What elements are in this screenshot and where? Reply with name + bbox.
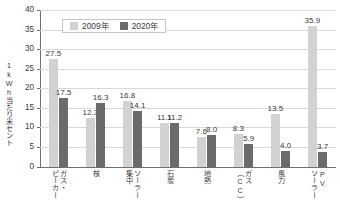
y-tick-label: 15 xyxy=(25,104,34,112)
bar-value-label: 11.2 xyxy=(167,114,182,122)
bar-value-label: 8.0 xyxy=(206,126,217,134)
plot-area: 0510152025303540 27.517.512.316.316.814.… xyxy=(40,10,336,168)
legend-item-2020: 2020年 xyxy=(120,22,159,30)
category-label-column: PV xyxy=(318,170,326,199)
category-label: 地熱 xyxy=(188,170,225,211)
bar-2020: 4.0 xyxy=(281,151,290,167)
category-label: 核 xyxy=(77,170,114,211)
category-label-column: 地熱 xyxy=(202,170,210,184)
bar-value-label: 3.7 xyxy=(317,143,328,151)
bar-value-label: 8.3 xyxy=(233,125,244,133)
y-tick-label: 35 xyxy=(25,25,34,33)
y-tick-label: 40 xyxy=(25,6,34,14)
bar-2020: 17.5 xyxy=(59,98,68,167)
bar-value-label: 16.8 xyxy=(120,92,136,100)
bar-value-label: 35.9 xyxy=(305,17,321,25)
legend-label-2009: 2009年 xyxy=(82,22,109,30)
x-axis-line xyxy=(40,167,336,168)
legend-item-2009: 2009年 xyxy=(70,22,109,30)
bar-value-label: 13.5 xyxy=(268,105,284,113)
y-tick-label: 25 xyxy=(25,65,34,73)
y-tick-label: 0 xyxy=(29,162,34,170)
bar-2009: 7.6 xyxy=(197,137,206,167)
legend-label-2020: 2020年 xyxy=(132,22,159,30)
bar-value-label: 14.1 xyxy=(130,102,146,110)
category-label: ソーラー集中 xyxy=(114,170,151,211)
bar-value-label: 16.3 xyxy=(93,94,109,102)
bar-chart: 1kWh当たり米セント 0510152025303540 27.517.512.… xyxy=(0,0,340,211)
bar-2009: 35.9 xyxy=(308,26,317,167)
bar-group: 7.68.0 xyxy=(188,10,225,167)
bar-2020: 5.9 xyxy=(244,144,253,167)
bar-value-label: 17.5 xyxy=(56,89,72,97)
bar-group: 12.316.3 xyxy=(77,10,114,167)
category-label-column: ガス・ xyxy=(59,170,67,199)
category-label-column: ソーラー xyxy=(133,170,141,199)
bar-2020: 3.7 xyxy=(318,152,327,166)
bar-groups: 27.517.512.316.316.814.111.111.27.68.08.… xyxy=(40,10,336,167)
y-tick-label: 20 xyxy=(25,84,34,92)
bar-2020: 14.1 xyxy=(133,111,142,166)
category-label-column: 風力 xyxy=(276,170,284,184)
category-label-column: ガス xyxy=(244,170,252,203)
y-axis-title: 1kWh当たり米セント xyxy=(2,38,15,168)
category-label-column: ソーラー xyxy=(309,170,317,199)
category-label-column: 集中 xyxy=(124,170,132,199)
y-tick-label: 5 xyxy=(29,143,34,151)
category-label-column: ピーカー xyxy=(50,170,58,199)
category-label: 風力 xyxy=(262,170,299,211)
bar-2009: 8.3 xyxy=(234,134,243,166)
category-label: ガス・ピーカー xyxy=(40,170,77,211)
bar-value-label: 4.0 xyxy=(280,142,291,150)
bar-2009: 27.5 xyxy=(49,59,58,167)
bar-2009: 16.8 xyxy=(123,101,132,167)
bar-group: 8.35.9 xyxy=(225,10,262,167)
bar-2020: 8.0 xyxy=(207,135,216,166)
bar-2020: 11.2 xyxy=(170,123,179,167)
chart-legend: 2009年 2020年 xyxy=(62,19,166,33)
legend-swatch-2009 xyxy=(70,22,78,30)
bar-group: 13.54.0 xyxy=(262,10,299,167)
bar-2009: 11.1 xyxy=(160,123,169,166)
y-tick-label: 30 xyxy=(25,45,34,53)
bar-group: 16.814.1 xyxy=(114,10,151,167)
legend-swatch-2020 xyxy=(120,22,128,30)
bar-value-label: 27.5 xyxy=(46,50,62,58)
bar-2009: 12.3 xyxy=(86,118,95,166)
y-tick-label: 10 xyxy=(25,123,34,131)
category-label-column: 石炭 xyxy=(165,170,173,184)
category-label-column: （CC） xyxy=(235,170,243,203)
bar-group: 35.93.7 xyxy=(299,10,336,167)
bar-group: 11.111.2 xyxy=(151,10,188,167)
bar-group: 27.517.5 xyxy=(40,10,77,167)
bar-value-label: 5.9 xyxy=(243,135,254,143)
category-label: 石炭 xyxy=(151,170,188,211)
category-label: ガス（CC） xyxy=(225,170,262,211)
bar-2020: 16.3 xyxy=(96,103,105,167)
category-label-column: 核 xyxy=(91,170,99,177)
x-axis-category-labels: ガス・ピーカー核ソーラー集中石炭地熱ガス（CC）風力PVソーラー xyxy=(40,170,336,211)
bar-2009: 13.5 xyxy=(271,114,280,167)
y-tick-mark xyxy=(37,167,41,168)
category-label: PVソーラー xyxy=(299,170,336,211)
